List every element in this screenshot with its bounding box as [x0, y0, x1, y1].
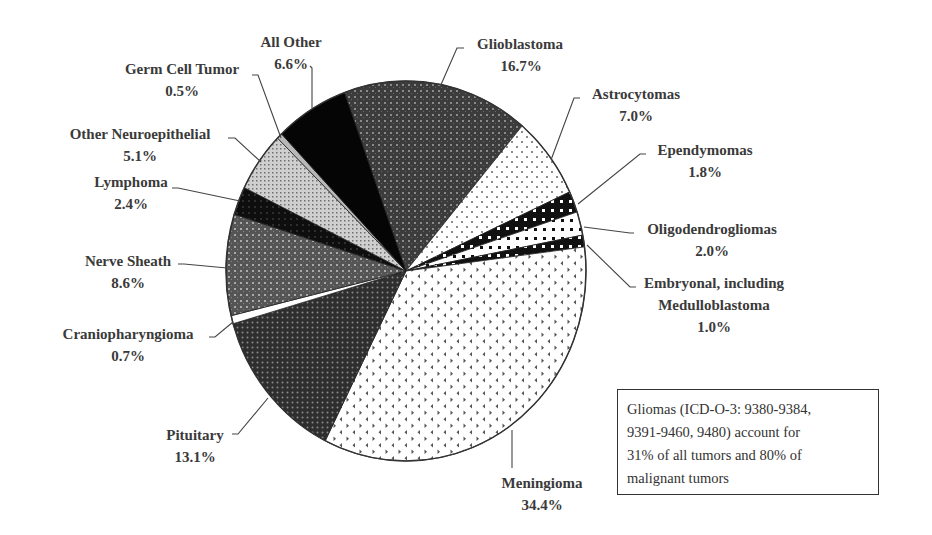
label-craniopharyngioma-name: Craniopharyngioma	[63, 326, 194, 342]
label-glioblastoma-pct: 16.7%	[500, 58, 541, 74]
label-craniopharyngioma-pct: 0.7%	[111, 348, 145, 364]
label-pituitary-name: Pituitary	[166, 427, 224, 443]
label-ependymomas-pct: 1.8%	[688, 164, 722, 180]
label-meningioma-name: Meningioma	[502, 475, 583, 491]
leader-glioblastoma	[440, 48, 464, 87]
label-all-other-name: All Other	[260, 34, 322, 50]
label-lymphoma-pct: 2.4%	[114, 196, 148, 212]
leader-craniopharyngioma	[209, 322, 233, 337]
gliomas-annotation-box: Gliomas (ICD-O-3: 9380-9384, 9391-9460, …	[617, 389, 879, 495]
label-meningioma-pct: 34.4%	[521, 497, 562, 513]
label-embryonal-name1: Embryonal, including	[644, 275, 785, 291]
leader-nerve-sheath	[178, 264, 227, 268]
label-embryonal-pct: 1.0%	[697, 319, 731, 335]
label-germ-cell-pct: 0.5%	[165, 83, 199, 99]
leader-astrocytomas	[551, 98, 580, 160]
label-oligodendrogliomas-name: Oligodendrogliomas	[647, 221, 777, 237]
label-ependymomas-name: Ependymomas	[657, 142, 752, 158]
label-pituitary-pct: 13.1%	[174, 449, 215, 465]
annotation-line-1: Gliomas (ICD-O-3: 9380-9384,	[627, 398, 869, 421]
label-oligodendrogliomas-pct: 2.0%	[695, 243, 729, 259]
leader-other-neuroepithelial	[228, 138, 261, 162]
leader-embryonal	[587, 245, 636, 287]
leader-ependymomas	[578, 154, 646, 204]
label-germ-cell-name: Germ Cell Tumor	[125, 61, 239, 77]
label-glioblastoma-name: Glioblastoma	[477, 36, 563, 52]
label-other-neuroepithelial-pct: 5.1%	[123, 148, 157, 164]
leader-all-other	[310, 66, 312, 108]
label-embryonal-name2: Medulloblastoma	[658, 297, 770, 313]
label-other-neuroepithelial-name: Other Neuroepithelial	[70, 126, 211, 142]
pie-slices	[226, 81, 586, 461]
leader-germ-cell	[252, 75, 281, 138]
label-astrocytomas-name: Astrocytomas	[592, 86, 680, 102]
annotation-line-3: 31% of all tumors and 80% of	[627, 444, 869, 467]
label-nerve-sheath-pct: 8.6%	[111, 275, 145, 291]
leader-oligodendrogliomas	[584, 227, 634, 233]
label-lymphoma-name: Lymphoma	[94, 174, 168, 190]
leader-lymphoma	[172, 188, 240, 201]
leader-pituitary	[232, 398, 268, 434]
annotation-line-2: 9391-9460, 9480) account for	[627, 421, 869, 444]
label-astrocytomas-pct: 7.0%	[619, 108, 653, 124]
label-nerve-sheath-name: Nerve Sheath	[85, 253, 172, 269]
label-all-other-pct: 6.6%	[274, 56, 308, 72]
annotation-line-4: malignant tumors	[627, 467, 869, 490]
